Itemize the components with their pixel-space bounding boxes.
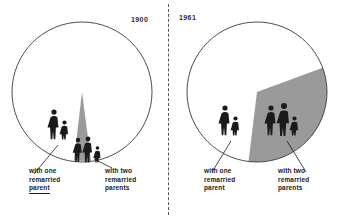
label-one-remarried-parent-1961: with one remarried parent: [204, 167, 235, 193]
figure-root: 1900: [0, 0, 345, 219]
panel-1900: 1900: [0, 0, 172, 219]
pie-chart-1900: [12, 22, 152, 162]
label-line-2: remarried: [204, 176, 235, 185]
label-two-remarried-parents-1900: with two remarried parents: [105, 167, 136, 193]
label-line-3: parents: [105, 184, 136, 193]
label-line-2: remarried: [29, 176, 60, 185]
label-line-1: with one: [204, 167, 235, 176]
label-line-3: parents: [278, 184, 309, 193]
label-line-1: with two: [278, 167, 309, 176]
pie-chart-1961: [187, 22, 327, 162]
label-line-3: parent: [29, 184, 50, 194]
panel-divider: [168, 4, 169, 215]
pictogram-one-parent-1900: [48, 109, 68, 139]
label-line-1: with one: [29, 167, 60, 176]
pictogram-two-parents-1900: [73, 137, 101, 163]
pictogram-one-parent-1961: [219, 105, 240, 135]
label-line-2: remarried: [278, 176, 309, 185]
label-one-remarried-parent-1900: with one remarried parent: [29, 167, 60, 194]
label-line-2: remarried: [105, 176, 136, 185]
year-label-1961: 1961: [179, 14, 196, 21]
label-line-1: with two: [105, 167, 136, 176]
label-line-3: parent: [204, 184, 235, 193]
panel-1961: 1961: [173, 0, 345, 219]
label-two-remarried-parents-1961: with two remarried parents: [278, 167, 309, 193]
